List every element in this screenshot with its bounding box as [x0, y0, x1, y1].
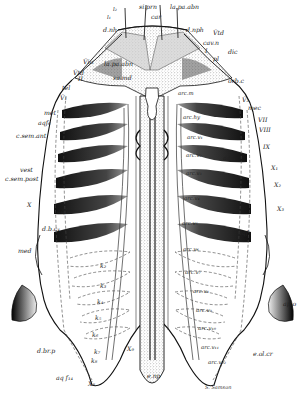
label-d-nh: d.nh	[103, 27, 117, 33]
anatomical-figure	[0, 0, 305, 402]
label-l2: l₂	[113, 7, 117, 12]
vertebral-column	[136, 88, 168, 383]
label-X2: X₂	[274, 182, 281, 188]
label-aqf7: aqf₇	[238, 230, 250, 236]
label-IX: IX	[263, 144, 270, 150]
label-k7: k₇	[94, 349, 100, 355]
label-sa-md: sa.md	[113, 75, 132, 81]
label-v-td-right: V̄td	[213, 30, 224, 36]
label-arc-v3: arc.v₃	[186, 171, 202, 176]
label-mec: mec	[248, 105, 261, 111]
label-k5: k₅	[95, 315, 101, 321]
label-aqf6-b: aqf₆	[57, 208, 69, 214]
label-X9: X₉	[127, 346, 134, 352]
label-med: med	[18, 248, 32, 254]
label-car: car	[151, 14, 161, 20]
label-arc-v2: arc.v₂	[186, 153, 202, 158]
label-met: met	[44, 110, 56, 116]
label-arc-v8: arc.v₈	[193, 289, 209, 294]
label-e-ol-cr: e.ol.cr	[253, 351, 273, 357]
label-k4: k₄	[97, 299, 103, 305]
label-X-left: X	[27, 202, 31, 208]
label-d-b-c: d.b.c₄	[42, 226, 60, 232]
label-dic: dic	[228, 49, 237, 55]
label-X3: X₃	[277, 206, 284, 212]
label-k8: k₈	[91, 358, 97, 364]
label-k2: k₂	[100, 263, 106, 269]
label-arc-v10: arc.v₁₀	[198, 326, 216, 331]
label-arc-hy: arc.hy	[183, 115, 200, 120]
label-aqf6: aqf₆	[38, 120, 50, 126]
label-aqf4: aqf₄	[223, 155, 235, 161]
label-VIII: VIII	[259, 127, 271, 133]
label-k3: k₃	[100, 283, 106, 289]
label-pl: pl	[213, 56, 219, 62]
label-e-np: e.np	[147, 373, 161, 379]
label-si-prn: si.prn	[139, 4, 157, 10]
label-arc-m: arc.m	[178, 91, 194, 96]
label-VII: VII	[258, 117, 267, 123]
label-d-br-p: d.br.p	[37, 348, 55, 354]
label-ap-o: ap.o	[283, 301, 296, 307]
label-k6: k₆	[92, 332, 98, 338]
label-c-sem-post: c.sem.post	[5, 176, 38, 182]
label-arc-v4: arc.v₄	[184, 196, 200, 201]
label-X8: X₈	[88, 381, 95, 387]
label-arc-v11: arc.v₁₁	[201, 345, 219, 350]
label-v-io: V̄io	[83, 59, 93, 65]
label-tel: tel	[62, 85, 70, 91]
label-v-1: V̄₁	[60, 95, 67, 101]
label-arc-v6: arc.v₆	[183, 247, 199, 252]
label-d-nph: d.nph	[186, 27, 204, 33]
label-arc-v7: arc.v₇	[185, 270, 201, 275]
label-arc-v12: arc.v₁₂	[208, 360, 226, 365]
label-II: II	[78, 76, 83, 82]
label-orb-c: orb.c	[228, 78, 244, 84]
label-X1: X₁	[271, 165, 278, 171]
artist-signature: S. Samson	[205, 384, 231, 390]
label-cav-n: cav.n	[203, 40, 219, 46]
label-arc-v1: arc.v₁	[187, 135, 203, 140]
label-aqf14: aq f₁₄	[56, 375, 73, 381]
label-la-pa-abn: la.pa.abn	[104, 61, 133, 67]
label-vest: vest	[20, 167, 33, 173]
label-l1: l₁	[107, 15, 111, 20]
label-c-sem-ant: c.sem.ant	[16, 133, 46, 139]
label-v3: V̄₃	[242, 97, 249, 103]
label-I: I	[205, 48, 207, 54]
label-la-pa-abn-top: la.pa.abn	[170, 4, 199, 10]
left-fin	[12, 285, 37, 321]
label-arc-v9: arc.v₉	[196, 308, 212, 313]
label-arc-v5: arc.v₅	[182, 221, 198, 226]
